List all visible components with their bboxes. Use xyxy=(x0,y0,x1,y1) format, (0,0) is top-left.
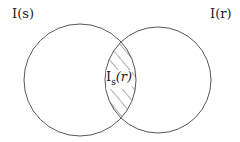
set-s-label: I(s) xyxy=(12,6,34,21)
venn-diagram: I(s) I(r) Is(r) xyxy=(0,0,240,142)
intersection-label: Is(r) xyxy=(106,70,132,89)
intersection-label-arg: (r) xyxy=(116,69,132,84)
set-r-label: I(r) xyxy=(210,6,232,21)
